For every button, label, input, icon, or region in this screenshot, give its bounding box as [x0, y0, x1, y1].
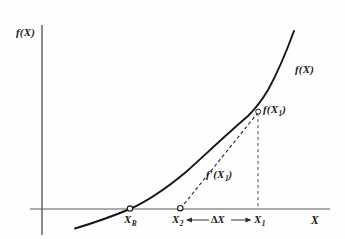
function-curve: [75, 31, 294, 229]
tangent-line: [181, 112, 259, 209]
root-base: X: [124, 213, 132, 225]
x-axis-label: X: [311, 215, 319, 227]
root-label: XR: [124, 214, 137, 225]
x2-base: X: [172, 213, 180, 225]
f-prime-close: ): [229, 168, 233, 180]
root-subscript: R: [132, 219, 137, 228]
f-prime-of-x1-label: f′(X1): [206, 169, 232, 180]
delta-x-label: ΔX: [211, 215, 225, 226]
x1-base: X: [254, 213, 262, 225]
x1-subscript: 1: [262, 219, 266, 228]
newton-raphson-diagram: f(X) f(X) f(X1) f′(X1) XR X2 ΔX X1 X: [0, 0, 345, 239]
delta-x-left-arrowhead: [186, 218, 192, 223]
delta-symbol: Δ: [211, 214, 218, 225]
curve-label: f(X): [295, 64, 314, 75]
delta-variable: X: [218, 214, 225, 225]
f-prime-subscript: 1: [225, 174, 229, 183]
root-marker-icon: [127, 206, 132, 211]
x2-label: X2: [172, 214, 184, 225]
x2-marker-icon: [178, 206, 183, 211]
diagram-canvas: [0, 0, 345, 239]
tangent-point-marker-icon: [256, 109, 261, 114]
delta-x-right-arrowhead: [246, 218, 252, 223]
y-axis-label: f(X): [16, 27, 35, 38]
x2-subscript: 2: [180, 219, 184, 228]
f-prime-open: (X: [213, 168, 224, 180]
f-of-x1-subscript: 1: [279, 109, 283, 118]
x1-label: X1: [254, 214, 266, 225]
f-of-x1-text: f(X: [263, 103, 278, 115]
f-of-x1-label: f(X1): [263, 104, 286, 115]
